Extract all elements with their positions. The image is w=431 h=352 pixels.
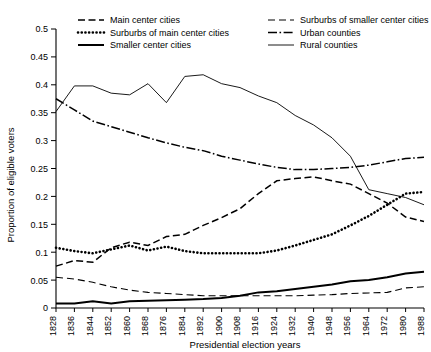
y-tick-label: 0: [43, 303, 48, 313]
series-line: [56, 272, 424, 304]
y-tick-label: 0.5: [35, 24, 48, 34]
x-axis-tick-labels: 1828183618441852186018681876188418921900…: [48, 316, 426, 336]
legend-label: Smaller center cities: [110, 40, 192, 50]
x-tick-label: 1924: [269, 316, 279, 336]
x-tick-label: 1828: [48, 316, 58, 336]
x-tick-label: 1956: [342, 316, 352, 336]
x-tick-label: 1980: [398, 316, 408, 336]
x-tick-label: 1868: [140, 316, 150, 336]
y-tick-label: 0.35: [30, 108, 48, 118]
legend-label: Rural counties: [300, 40, 358, 50]
chart-legend: Main center citiesSurburbs of smaller ce…: [78, 15, 429, 50]
y-tick-label: 0.2: [35, 192, 48, 202]
x-tick-label: 1884: [177, 316, 187, 336]
legend-label: Urban counties: [300, 28, 361, 38]
x-tick-label: 1876: [158, 316, 168, 336]
x-tick-label: 1940: [306, 316, 316, 336]
series-line: [56, 192, 424, 253]
series-line: [56, 177, 424, 266]
x-tick-label: 1932: [287, 316, 297, 336]
y-axis-tick-labels: 00.050.10.150.20.250.30.350.40.450.5: [30, 24, 48, 313]
x-tick-label: 1844: [85, 316, 95, 336]
legend-label: Surburbs of smaller center cities: [300, 15, 429, 25]
chart-container: Main center citiesSurburbs of smaller ce…: [0, 0, 431, 352]
x-tick-label: 1836: [66, 316, 76, 336]
x-tick-label: 1972: [379, 316, 389, 336]
x-tick-label: 1916: [250, 316, 260, 336]
y-tick-label: 0.4: [35, 80, 48, 90]
y-axis-title: Proportion of eligible voters: [5, 127, 16, 242]
legend-label: Main center cities: [110, 15, 181, 25]
x-tick-label: 1900: [214, 316, 224, 336]
x-axis-title: Presidential election years: [190, 339, 301, 350]
x-tick-label: 1964: [361, 316, 371, 336]
x-tick-label: 1892: [195, 316, 205, 336]
y-tick-label: 0.3: [35, 136, 48, 146]
x-tick-label: 1860: [122, 316, 132, 336]
x-tick-label: 1948: [324, 316, 334, 336]
x-tick-label: 1908: [232, 316, 242, 336]
series-line: [56, 99, 424, 170]
y-tick-label: 0.25: [30, 164, 48, 174]
chart-axes: [51, 29, 424, 312]
x-tick-label: 1988: [416, 316, 426, 336]
chart-series: [56, 75, 424, 304]
line-chart: Main center citiesSurburbs of smaller ce…: [0, 0, 431, 352]
y-tick-label: 0.45: [30, 52, 48, 62]
x-tick-label: 1852: [103, 316, 113, 336]
y-tick-label: 0.1: [35, 248, 48, 258]
y-tick-label: 0.05: [30, 276, 48, 286]
y-tick-label: 0.15: [30, 220, 48, 230]
legend-label: Surburbs of main center cities: [110, 28, 230, 38]
series-line: [56, 75, 424, 205]
